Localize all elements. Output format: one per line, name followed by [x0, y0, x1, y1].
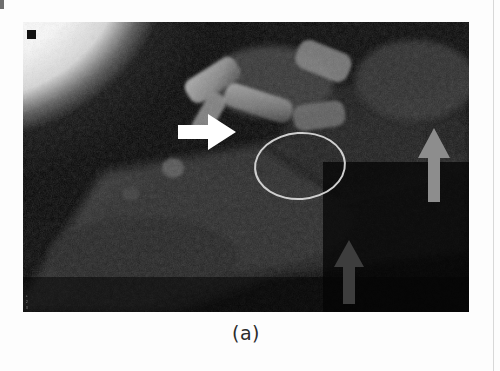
arrow-right-icon — [178, 114, 236, 150]
page-crop-mark-icon — [0, 0, 4, 9]
gray-arrow-upper-right — [418, 128, 450, 202]
radiograph-image — [23, 22, 469, 312]
scanned-page: 1 2 3 (a) — [0, 0, 500, 371]
burned-in-line-2: 2 — [26, 301, 36, 304]
film-corner-marker-icon — [27, 30, 36, 39]
white-arrow — [178, 114, 236, 150]
page-edge-rule — [493, 0, 494, 371]
arrow-up-icon — [418, 128, 450, 202]
arrow-up-icon — [333, 240, 365, 304]
burned-in-line-3: 3 — [26, 307, 36, 310]
burned-in-line-1: 1 — [26, 295, 36, 298]
burned-in-machine-text: 1 2 3 — [26, 295, 36, 310]
gray-arrow-lower-center — [333, 240, 365, 304]
figure-caption: (a) — [0, 322, 492, 344]
figure-image-panel: 1 2 3 — [23, 22, 469, 312]
